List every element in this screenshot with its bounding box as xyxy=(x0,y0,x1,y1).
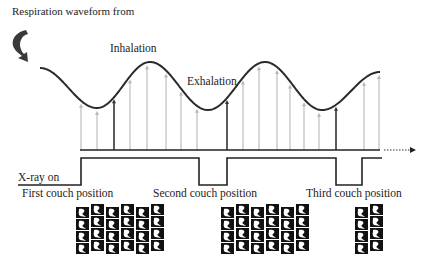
arrow-head-icon xyxy=(95,111,99,115)
xray-on-label: X-ray on xyxy=(18,171,59,184)
arrow-head-icon xyxy=(257,66,261,70)
time-axis-arrow-icon xyxy=(410,147,416,153)
arrow-head-icon xyxy=(195,109,199,113)
arrow-head-icon xyxy=(241,81,245,85)
arrow-head-icon xyxy=(179,92,183,96)
first-couch-position-label: First couch position xyxy=(22,187,114,200)
diagram-title: Respiration waveform from xyxy=(12,5,135,17)
second-couch-position-label: Second couch position xyxy=(153,187,257,200)
arrow-head-icon xyxy=(334,107,338,111)
arrow-head-icon xyxy=(302,102,306,106)
respiration-gating-diagram: Respiration waveform from Inhalation Exh… xyxy=(0,0,431,272)
arrow-head-icon xyxy=(275,70,279,74)
arrow-head-icon xyxy=(164,73,168,77)
arrow-head-icon xyxy=(362,82,366,86)
arrow-head-icon xyxy=(288,84,292,88)
exhalation-label: Exhalation xyxy=(187,75,237,87)
arrow-head-icon xyxy=(377,75,381,79)
third-couch-position-label: Third couch position xyxy=(306,187,402,200)
xray-on-signal xyxy=(18,158,382,185)
inhalation-label: Inhalation xyxy=(110,42,157,54)
ct-image-stacks xyxy=(76,204,383,254)
curved-arrow-icon xyxy=(13,30,28,62)
arrow-head-icon xyxy=(128,79,132,83)
arrow-head-icon xyxy=(145,65,149,69)
arrow-head-icon xyxy=(79,104,83,108)
arrow-head-icon xyxy=(317,113,321,117)
